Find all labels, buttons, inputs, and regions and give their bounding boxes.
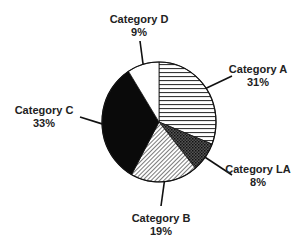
pie-slices [102,62,216,182]
leader-line [80,117,102,124]
label-category-c: Category C 33% [15,104,74,130]
label-name: Category LA [225,163,290,176]
label-category-la: Category LA 8% [225,163,290,189]
label-name: Category A [229,63,287,76]
label-name: Category C [15,104,74,117]
label-name: Category B [132,212,191,225]
label-percent: 9% [110,26,169,39]
label-category-d: Category D 9% [110,13,169,39]
label-percent: 8% [225,176,290,189]
leader-line [140,41,143,64]
label-category-a: Category A 31% [229,63,287,89]
label-category-b: Category B 19% [132,212,191,238]
label-percent: 19% [132,225,191,238]
label-percent: 31% [229,76,287,89]
label-percent: 33% [15,117,74,130]
leader-line [161,182,164,206]
label-name: Category D [110,13,169,26]
